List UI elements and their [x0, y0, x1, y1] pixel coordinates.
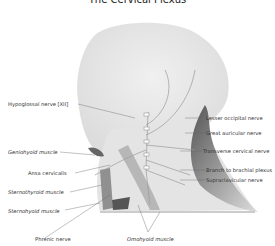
label-sternohyoid-muscle: Sternohyoid muscle: [8, 208, 60, 214]
label-transverse-cervical-nerve: Transverse cervical nerve: [203, 148, 269, 154]
label-brachial-plexus-branch: Branch to brachial plexus: [206, 167, 272, 173]
label-lesser-occipital-nerve: Lesser occipital nerve: [206, 115, 263, 121]
label-ansa-cervicalis: Ansa cervicalis: [28, 170, 67, 176]
label-geniohyoid-muscle: Geniohyoid muscle: [8, 149, 58, 155]
label-sternothyroid-muscle: Sternothyroid muscle: [8, 189, 64, 195]
label-supraclavicular-nerve: Supraclavicular nerve: [206, 177, 263, 183]
label-great-auricular-nerve: Great auricular nerve: [206, 130, 262, 136]
label-phrenic-nerve: Phrenic nerve: [35, 236, 71, 242]
label-hypoglossal-nerve: Hypoglossal nerve [XII]: [8, 101, 68, 107]
label-omohyoid-muscle: Omohyoid muscle: [127, 236, 174, 242]
